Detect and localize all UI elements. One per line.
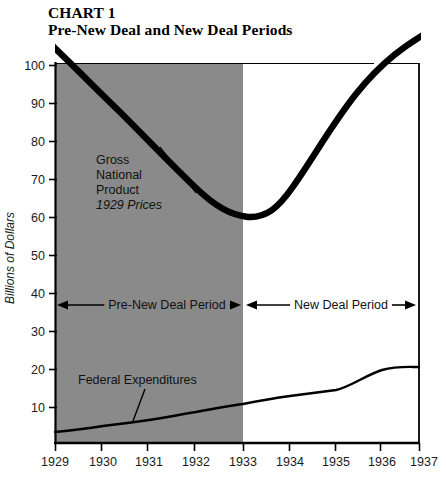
gnp-label-units: 1929 Prices	[96, 198, 162, 212]
gnp-label-line3: Product	[96, 183, 140, 197]
ytick-label: 60	[31, 211, 45, 225]
ytick-label: 70	[31, 173, 45, 187]
ytick-label: 100	[24, 59, 45, 73]
gnp-label-line1: Gross	[96, 153, 129, 167]
ytick-label: 90	[31, 97, 45, 111]
xtick-label: 1931	[135, 455, 163, 469]
new-deal-period-arrow: New Deal Period	[246, 296, 416, 314]
new-deal-period-label: New Deal Period	[294, 298, 388, 312]
ytick-label: 30	[31, 325, 45, 339]
xtick-label: 1932	[182, 455, 210, 469]
federal-expenditures-label: Federal Expenditures	[78, 373, 197, 387]
chart-figure: CHART 1 Pre-New Deal and New Deal Period…	[0, 0, 446, 479]
x-axis-tick-labels: 1929 1930 1931 1932 1933 1934 1935 1936 …	[41, 455, 438, 469]
pre-new-deal-period-label: Pre-New Deal Period	[108, 298, 225, 312]
xtick-label: 1929	[41, 455, 69, 469]
xtick-label: 1937	[410, 455, 438, 469]
xtick-label: 1936	[368, 455, 396, 469]
ytick-label: 40	[31, 287, 45, 301]
y-axis-tick-labels: 100 90 80 70 60 50 40 30 20 10	[24, 59, 45, 415]
ytick-label: 50	[31, 249, 45, 263]
xtick-label: 1934	[276, 455, 304, 469]
ytick-label: 10	[31, 401, 45, 415]
xtick-label: 1933	[229, 455, 257, 469]
chart-plot-area: 100 90 80 70 60 50 40 30 20 10 Billions …	[0, 0, 446, 479]
gnp-label-line2: National	[96, 168, 142, 182]
ytick-label: 80	[31, 135, 45, 149]
xtick-label: 1935	[322, 455, 350, 469]
y-axis-title: Billions of Dollars	[3, 212, 17, 304]
xtick-label: 1930	[89, 455, 117, 469]
ytick-label: 20	[31, 363, 45, 377]
